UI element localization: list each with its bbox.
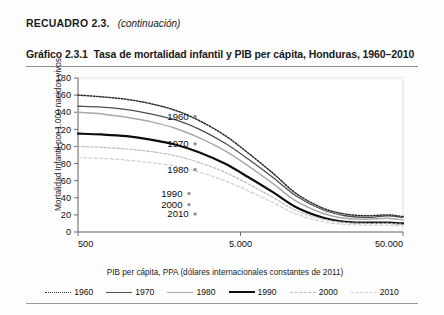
annotation-label-1960: 1960 <box>167 111 188 122</box>
annotation-label-1970: 1970 <box>167 138 188 149</box>
title-divider <box>26 66 418 67</box>
plot-background <box>78 78 403 232</box>
legend-swatch-1970 <box>106 292 132 293</box>
annotation-marker-1960 <box>194 115 197 118</box>
legend-swatch-2000 <box>290 292 316 293</box>
legend-item-1990[interactable]: 1990 <box>229 287 277 297</box>
legend-swatch-2010 <box>351 292 377 293</box>
legend-item-1970[interactable]: 1970 <box>106 287 154 297</box>
y-tick-label: 0 <box>66 227 71 237</box>
y-axis-title: Mortalidad Infantil por 1.000 nacidos vi… <box>54 55 63 215</box>
legend-label-1980: 1980 <box>196 287 215 297</box>
figure-title: Tasa de mortalidad infantil y PIB per cá… <box>94 48 415 60</box>
line-chart-svg: 020406080100120140160180 5005.00050.000 … <box>26 72 418 258</box>
axis-frame <box>78 78 403 232</box>
annotation-marker-2000 <box>188 203 191 206</box>
legend-label-1960: 1960 <box>74 287 93 297</box>
legend-item-2010[interactable]: 2010 <box>351 287 399 297</box>
legend-item-2000[interactable]: 2000 <box>290 287 338 297</box>
legend-item-1960[interactable]: 1960 <box>45 287 93 297</box>
legend-label-1990: 1990 <box>258 287 277 297</box>
legend-item-1980[interactable]: 1980 <box>167 287 215 297</box>
box-label: RECUADRO 2.3. <box>26 17 110 29</box>
box-header: RECUADRO 2.3. (continuación) <box>26 17 180 29</box>
chart-plot-area: 020406080100120140160180 5005.00050.000 … <box>26 72 418 258</box>
legend-label-1970: 1970 <box>135 287 154 297</box>
box-continuation-note: (continuación) <box>118 18 181 29</box>
page-title: Gráfico 2.3.1 Tasa de mortalidad infanti… <box>26 48 414 60</box>
x-tick-label: 500 <box>78 239 93 249</box>
figure-page: RECUADRO 2.3. (continuación) Gráfico 2.3… <box>0 0 444 315</box>
legend-swatch-1990 <box>229 291 255 293</box>
bottom-divider <box>26 303 418 304</box>
annotation-marker-1970 <box>194 142 197 145</box>
annotation-marker-1980 <box>194 168 197 171</box>
annotation-marker-1990 <box>188 192 191 195</box>
annotation-label-2010: 2010 <box>167 208 188 219</box>
legend-label-2010: 2010 <box>380 287 399 297</box>
annotation-label-1990: 1990 <box>161 188 182 199</box>
annotation-marker-2010 <box>194 213 197 216</box>
x-tick-label: 50.000 <box>375 239 403 249</box>
x-tick-label: 5.000 <box>229 239 252 249</box>
annotation-label-1980: 1980 <box>167 164 188 175</box>
x-axis-ticks: 5005.00050.000 <box>78 232 403 249</box>
x-axis-title: PIB per cápita, PPA (dólares internacion… <box>40 268 410 277</box>
legend-label-2000: 2000 <box>319 287 338 297</box>
legend-swatch-1960 <box>45 292 71 293</box>
legend-swatch-1980 <box>167 292 193 293</box>
chart-legend: 196019701980199020002010 <box>26 283 418 301</box>
